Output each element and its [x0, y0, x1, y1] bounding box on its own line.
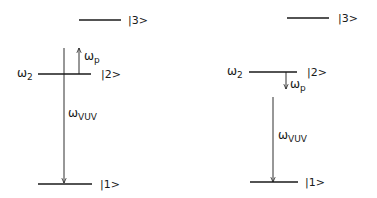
- energy-level-diagram: |3>|2>ω2|1>ωpωVUV|3>|2>ω2|1>ωpωVUV: [0, 0, 377, 198]
- omega-2-label: ω2: [227, 64, 243, 80]
- level-2-ket-label: |2>: [307, 66, 327, 79]
- level-3-ket-label: |3>: [128, 14, 148, 27]
- panel-right: |3>|2>ω2|1>ωpωVUV: [227, 12, 358, 189]
- omega-2-label: ω2: [17, 66, 33, 82]
- level-1-ket-label: |1>: [305, 176, 325, 189]
- level-3-ket-label: |3>: [338, 12, 358, 25]
- level-2-ket-label: |2>: [101, 68, 121, 81]
- omega-probe-label: ωp: [290, 77, 306, 93]
- panel-left: |3>|2>ω2|1>ωpωVUV: [17, 14, 148, 191]
- omega-vuv-label: ωVUV: [68, 106, 98, 122]
- level-1-ket-label: |1>: [100, 178, 120, 191]
- omega-probe-label: ωp: [84, 49, 100, 65]
- omega-vuv-label: ωVUV: [278, 128, 308, 144]
